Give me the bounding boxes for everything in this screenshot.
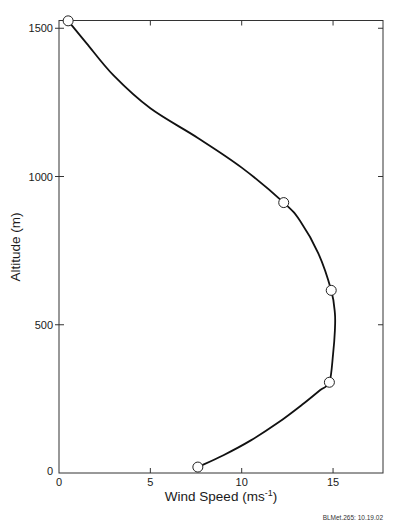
data-point-markers bbox=[63, 16, 336, 472]
wind-profile-chart: 051015050010001500 Wind Speed (ms-1) Alt… bbox=[0, 0, 399, 531]
y-tick-label: 1500 bbox=[29, 22, 53, 34]
y-tick-label: 500 bbox=[35, 319, 53, 331]
x-axis-label-superscript: -1 bbox=[265, 488, 273, 498]
data-point-marker bbox=[193, 462, 203, 472]
axis-ticks bbox=[55, 21, 383, 474]
axis-tick-labels: 051015050010001500 bbox=[29, 22, 340, 488]
y-tick-label: 1000 bbox=[29, 171, 53, 183]
y-tick-label: 0 bbox=[47, 465, 53, 477]
data-point-marker bbox=[324, 377, 334, 387]
plot-frame bbox=[59, 21, 383, 474]
footnote: BLMet.265: 10.19.02 bbox=[323, 514, 384, 521]
data-point-marker bbox=[63, 16, 73, 26]
wind-speed-curve bbox=[68, 21, 335, 467]
x-tick-label: 10 bbox=[236, 476, 248, 488]
data-point-marker bbox=[326, 285, 336, 295]
y-axis-label: Altitude (m) bbox=[8, 212, 23, 281]
x-tick-label: 15 bbox=[327, 476, 339, 488]
x-tick-label: 0 bbox=[56, 476, 62, 488]
x-tick-label: 5 bbox=[147, 476, 153, 488]
x-axis-label: Wind Speed (ms-1) bbox=[165, 488, 277, 504]
data-point-marker bbox=[279, 198, 289, 208]
